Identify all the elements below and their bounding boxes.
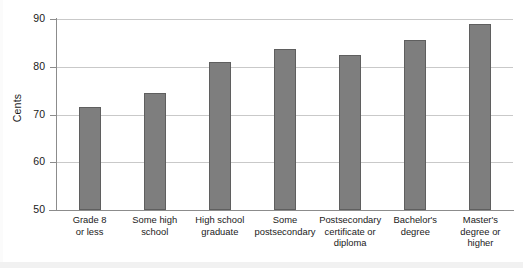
- bar: [274, 49, 296, 210]
- plot-area: 5060708090: [57, 19, 513, 210]
- category-label-line: degree or: [448, 226, 513, 238]
- bar: [339, 55, 361, 210]
- bar: [469, 24, 491, 210]
- category-label-line: postsecondary: [252, 226, 317, 238]
- x-axis-line: [49, 210, 514, 211]
- y-tick-50: [50, 210, 56, 211]
- y-tick-label-50: 50: [19, 203, 45, 215]
- category-label-line: higher: [448, 237, 513, 249]
- category-label: Somepostsecondary: [252, 214, 317, 237]
- bar: [144, 93, 166, 210]
- category-label-line: diploma: [318, 237, 383, 249]
- bar: [404, 40, 426, 210]
- y-tick-60: [50, 162, 56, 163]
- category-label-line: High school: [187, 214, 252, 226]
- gridline-90: [57, 19, 513, 20]
- y-tick-70: [50, 115, 56, 116]
- category-label-line: Bachelor's: [383, 214, 448, 226]
- y-tick-label-60: 60: [19, 155, 45, 167]
- category-label-line: Some high: [122, 214, 187, 226]
- category-label-line: Master's: [448, 214, 513, 226]
- category-label-line: Some: [252, 214, 317, 226]
- category-label-line: graduate: [187, 226, 252, 238]
- bar: [209, 62, 231, 211]
- category-label-line: Postsecondary: [318, 214, 383, 226]
- category-label: Some highschool: [122, 214, 187, 237]
- bar: [79, 107, 101, 210]
- category-label: Grade 8or less: [57, 214, 122, 237]
- category-label-line: school: [122, 226, 187, 238]
- category-label: Master'sdegree orhigher: [448, 214, 513, 249]
- y-tick-90: [50, 19, 56, 20]
- category-label-line: certificate or: [318, 226, 383, 238]
- bar-chart-figure: Cents 5060708090 Grade 8or lessSome high…: [0, 0, 523, 268]
- category-label: Postsecondarycertificate ordiploma: [318, 214, 383, 249]
- category-label: Bachelor'sdegree: [383, 214, 448, 237]
- y-tick-label-70: 70: [19, 108, 45, 120]
- category-label: High schoolgraduate: [187, 214, 252, 237]
- scan-edge-artifact: [0, 0, 3, 268]
- category-label-line: degree: [383, 226, 448, 238]
- x-axis-category-labels: Grade 8or lessSome highschoolHigh school…: [57, 214, 513, 266]
- scan-bottom-band: [0, 262, 523, 268]
- y-tick-label-80: 80: [19, 60, 45, 72]
- y-tick-label-90: 90: [19, 12, 45, 24]
- category-label-line: Grade 8: [57, 214, 122, 226]
- category-label-line: or less: [57, 226, 122, 238]
- y-tick-80: [50, 67, 56, 68]
